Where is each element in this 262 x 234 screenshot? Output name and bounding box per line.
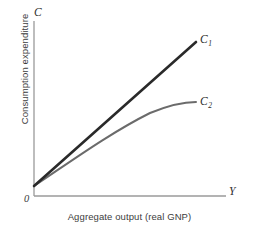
series-line-c1 (34, 42, 196, 186)
series-label-c1-letter: C (200, 33, 208, 45)
x-axis-title-text: Aggregate output (real GNP) (68, 211, 192, 222)
series-label-c2: C2 (200, 96, 211, 108)
x-axis-title: Aggregate output (real GNP) (34, 206, 225, 224)
series-label-c2-letter: C (200, 95, 208, 107)
consumption-function-chart: C Y 0 C1 C2 Consumption expenditure Aggr… (0, 0, 262, 234)
x-axis-variable-label: Y (229, 186, 235, 198)
series-label-c1-subscript: 1 (208, 39, 212, 48)
origin-label: 0 (24, 194, 29, 205)
series-label-c2-subscript: 2 (208, 101, 212, 110)
series-label-c1: C1 (200, 34, 211, 46)
y-axis-title: Consumption expenditure (14, 0, 28, 139)
chart-plot-area (0, 0, 262, 234)
y-axis-title-text: Consumption expenditure (19, 14, 30, 125)
y-axis-variable-label: C (34, 7, 42, 19)
